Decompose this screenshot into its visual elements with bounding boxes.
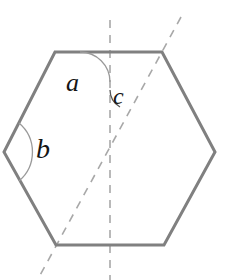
angle-a-arc	[80, 52, 110, 82]
geometry-canvas	[0, 0, 226, 280]
angle-b-arc	[19, 123, 32, 181]
angle-label-a: a	[66, 70, 79, 96]
geometry-figure: a b c	[0, 0, 226, 280]
angle-label-b: b	[36, 135, 50, 163]
angle-label-c: c	[113, 84, 124, 108]
